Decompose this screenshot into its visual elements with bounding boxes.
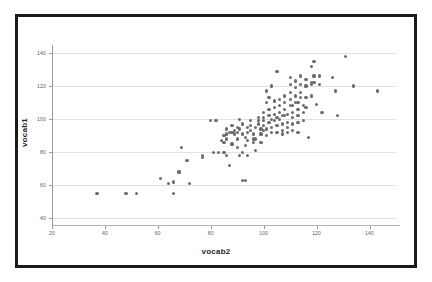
scatter-point — [236, 131, 239, 134]
scatter-point — [177, 170, 180, 173]
plot-canvas: 40608010012014020406080100120140 — [18, 17, 414, 265]
scatter-point — [267, 108, 270, 111]
y-tick-mark — [49, 218, 52, 219]
x-tick-label: 80 — [199, 230, 223, 236]
x-tick-mark — [264, 226, 265, 229]
scatter-point — [265, 134, 268, 137]
grid-line-horizontal — [52, 53, 396, 54]
scatter-point — [124, 192, 127, 195]
scatter-point — [95, 192, 98, 195]
scatter-point — [286, 126, 289, 129]
scatter-point — [159, 177, 162, 180]
scatter-point — [296, 108, 299, 111]
scatter-point — [270, 84, 273, 87]
scatter-point — [209, 119, 212, 122]
x-tick-label: 40 — [93, 230, 117, 236]
scatter-point — [265, 127, 268, 130]
scatter-point — [236, 137, 239, 140]
grid-line-horizontal — [52, 185, 396, 186]
y-tick-label: 120 — [26, 83, 46, 89]
scatter-point — [265, 89, 268, 92]
y-tick-mark — [49, 185, 52, 186]
y-tick-label: 60 — [26, 182, 46, 188]
scatter-point — [299, 91, 302, 94]
scatter-point — [270, 118, 273, 121]
x-tick-label: 140 — [358, 230, 382, 236]
scatter-point — [270, 126, 273, 129]
scatter-point — [312, 81, 315, 84]
scatter-point — [296, 121, 299, 124]
scatter-point — [286, 121, 289, 124]
scatter-point — [225, 154, 228, 157]
scatter-point — [267, 114, 270, 117]
scatter-point — [244, 179, 247, 182]
x-tick-label: 60 — [146, 230, 170, 236]
scatter-point — [299, 96, 302, 99]
scatter-point — [273, 106, 276, 109]
scatter-point — [291, 104, 294, 107]
scatter-point — [289, 76, 292, 79]
scatter-point — [275, 131, 278, 134]
x-tick-label: 120 — [305, 230, 329, 236]
x-tick-mark — [158, 226, 159, 229]
scatter-point — [241, 132, 244, 135]
scatter-point — [228, 164, 231, 167]
y-tick-label: 40 — [26, 215, 46, 221]
scatter-point — [257, 116, 260, 119]
scatter-point — [318, 83, 321, 86]
grid-line-horizontal — [52, 86, 396, 87]
scatter-point — [222, 141, 225, 144]
scatter-point — [291, 111, 294, 114]
scatter-point — [281, 122, 284, 125]
scatter-point — [296, 114, 299, 117]
scatter-point — [230, 124, 233, 127]
scatter-point — [312, 60, 315, 63]
y-tick-mark — [49, 152, 52, 153]
scatter-point — [304, 78, 307, 81]
scatter-point — [185, 159, 188, 162]
scatter-point — [283, 108, 286, 111]
scatter-point — [241, 151, 244, 154]
x-tick-mark — [370, 226, 371, 229]
scatter-point — [212, 151, 215, 154]
x-tick-label: 100 — [252, 230, 276, 236]
scatter-point — [236, 126, 239, 129]
scatter-point — [315, 103, 318, 106]
scatter-point — [214, 119, 217, 122]
scatter-point — [267, 121, 270, 124]
scatter-point — [259, 141, 262, 144]
grid-line-horizontal — [52, 218, 396, 219]
scatter-point — [259, 132, 262, 135]
x-tick-mark — [52, 226, 53, 229]
scatter-point — [180, 146, 183, 149]
y-tick-label: 80 — [26, 149, 46, 155]
x-axis-title: vocab2 — [18, 247, 414, 256]
y-axis-title: vocab1 — [20, 109, 29, 157]
scatter-point — [294, 79, 297, 82]
scatter-point — [318, 74, 321, 77]
scatter-point — [289, 91, 292, 94]
x-tick-label: 20 — [40, 230, 64, 236]
scatter-point — [241, 122, 244, 125]
scatter-point — [262, 111, 265, 114]
scatter-point — [294, 86, 297, 89]
grid-line-horizontal — [52, 119, 396, 120]
scatter-point — [238, 154, 241, 157]
scatter-point — [304, 96, 307, 99]
scatter-point — [352, 84, 355, 87]
scatter-point — [304, 106, 307, 109]
y-tick-mark — [49, 86, 52, 87]
scatter-point — [275, 116, 278, 119]
scatter-point — [286, 113, 289, 116]
scatter-plot-figure: 40608010012014020406080100120140 vocab2 … — [0, 0, 432, 282]
scatter-point — [225, 127, 228, 130]
scatter-point — [275, 70, 278, 73]
scatter-point — [278, 104, 281, 107]
scatter-point — [267, 96, 270, 99]
x-tick-mark — [317, 226, 318, 229]
scatter-point — [334, 89, 337, 92]
scatter-point — [249, 119, 252, 122]
scatter-point — [296, 101, 299, 104]
scatter-point — [238, 118, 241, 121]
y-tick-mark — [49, 119, 52, 120]
